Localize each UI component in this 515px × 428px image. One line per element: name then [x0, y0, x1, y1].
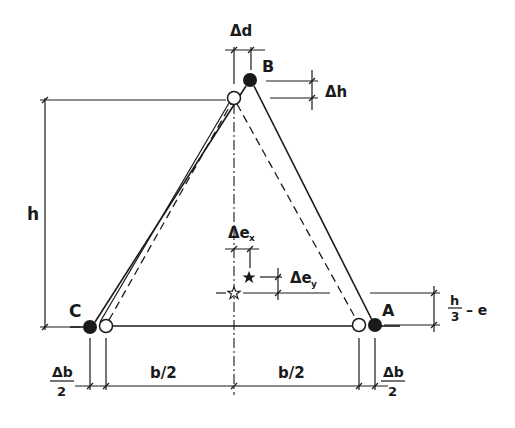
dimension-delta-h: Δh: [266, 70, 347, 110]
dimension-delta-ex: Δe x: [225, 224, 259, 268]
dimension-delta-ey: Δe y: [243, 268, 330, 300]
dimension-h: h: [27, 97, 226, 330]
svg-text:b/2: b/2: [278, 364, 305, 382]
svg-text:2: 2: [388, 384, 397, 399]
label-c: C: [69, 301, 81, 321]
svg-text:– e: – e: [466, 302, 487, 318]
node-b-filled: [243, 73, 257, 87]
diagram-canvas: B C A Δd Δh h: [0, 0, 515, 428]
centroid-markers: [216, 271, 256, 299]
node-c-open: [100, 320, 113, 333]
svg-text:Δe: Δe: [228, 224, 250, 242]
node-a-filled: [368, 318, 382, 332]
svg-text:Δb: Δb: [52, 364, 73, 380]
dimension-bottom-chain: b/2 b/2 Δb 2 Δb 2: [50, 338, 405, 399]
original-centroid-star-icon: [228, 287, 240, 299]
label-b: B: [262, 57, 274, 76]
node-b-open: [228, 92, 241, 105]
node-a: A: [353, 301, 396, 332]
svg-text:3: 3: [451, 310, 459, 324]
svg-text:2: 2: [57, 384, 66, 399]
svg-text:y: y: [311, 279, 317, 289]
label-a: A: [382, 301, 395, 320]
displaced-centroid-star-icon: [243, 271, 256, 283]
svg-text:Δe: Δe: [290, 269, 312, 287]
svg-text:h: h: [27, 204, 39, 224]
node-a-open: [353, 319, 366, 332]
node-c-filled: [83, 320, 97, 334]
svg-text:Δh: Δh: [325, 83, 347, 101]
svg-text:b/2: b/2: [150, 364, 177, 382]
svg-text:Δb: Δb: [383, 364, 404, 380]
svg-text:x: x: [249, 233, 255, 243]
dimension-delta-d: Δd: [225, 22, 265, 84]
svg-text:Δd: Δd: [230, 22, 252, 40]
svg-text:h: h: [450, 293, 459, 308]
